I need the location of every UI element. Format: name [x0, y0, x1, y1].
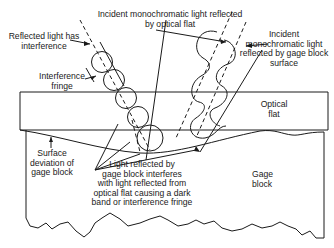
reflected-wave-circles: [92, 52, 164, 152]
gage-block-broken-edge: [26, 213, 324, 238]
label-incident-gage: Incident monochromatic light reflected b…: [236, 30, 332, 68]
label-gage-block: Gage block: [252, 170, 292, 189]
label-optical-flat: Optical flat: [244, 100, 304, 119]
label-surface-deviation: Surface deviation of gage block: [20, 149, 84, 178]
arrowheads: [49, 39, 252, 152]
label-light-reflected-note: Light reflected by gage block interferes…: [82, 160, 202, 208]
label-incident-flat: Incident monochromatic light reflected b…: [84, 10, 256, 29]
reflected-beam-lines: [80, 20, 150, 152]
label-interference-fringe: Interference fringe: [34, 72, 90, 91]
incident-wave-lobes: [190, 31, 235, 138]
label-reflected-interference: Reflected light has interference: [4, 32, 84, 51]
